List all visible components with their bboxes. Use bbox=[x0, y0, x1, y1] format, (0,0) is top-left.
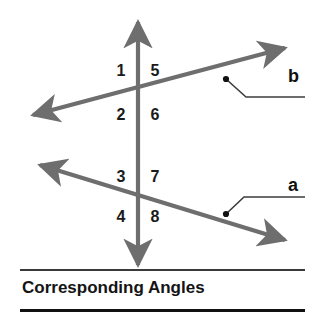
angle-label-8: 8 bbox=[147, 209, 163, 225]
angle-label-6: 6 bbox=[147, 107, 163, 123]
caption-rule-top bbox=[20, 269, 305, 271]
angle-label-3: 3 bbox=[113, 169, 129, 185]
line-label-a: a bbox=[288, 176, 298, 194]
angle-label-7: 7 bbox=[147, 169, 163, 185]
line-label-b: b bbox=[288, 67, 299, 85]
angle-label-2: 2 bbox=[113, 107, 129, 123]
caption-rule-bottom bbox=[20, 309, 305, 312]
leader-dot-a bbox=[223, 211, 229, 217]
leader-dot-b bbox=[223, 76, 229, 82]
caption-text: Corresponding Angles bbox=[22, 278, 205, 298]
leader-line-a bbox=[226, 197, 305, 214]
angle-label-1: 1 bbox=[113, 63, 129, 79]
angle-label-4: 4 bbox=[113, 209, 129, 225]
figure-container: 1 5 2 6 3 7 4 8 b a Corresponding Angles bbox=[0, 0, 321, 335]
caption-block: Corresponding Angles bbox=[0, 266, 321, 316]
line-b bbox=[33, 48, 285, 115]
angle-label-5: 5 bbox=[147, 63, 163, 79]
